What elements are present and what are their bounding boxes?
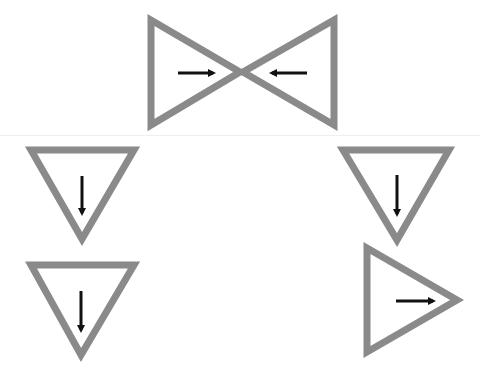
triangle-middle-right [343,150,449,240]
triangle-bowtie-left [151,20,240,125]
triangle-middle-left [31,150,134,239]
triangle-bottom-right [367,248,457,352]
triangle-arrow-diagram [0,0,480,370]
triangle-bowtie-right [243,20,334,125]
triangle-bottom-left [31,265,134,355]
